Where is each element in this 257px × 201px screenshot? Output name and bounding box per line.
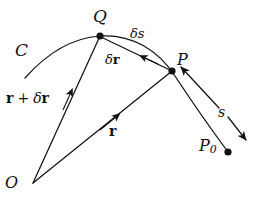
point-dot-p (168, 67, 175, 74)
point-dot-p0 (224, 148, 231, 155)
label-point-p: P (177, 52, 188, 68)
point-dot-q (96, 32, 103, 39)
label-r-plus-delta-r: r+δr (6, 91, 49, 105)
label-r-plus-delta-r-first-r: r (6, 90, 13, 106)
label-point-p0-base: P (199, 136, 210, 155)
vector-o-to-q (33, 36, 100, 183)
vector-calculus-diagram: C Q P P0 O δs δr r+δr r s (0, 0, 257, 201)
label-origin-o: O (5, 175, 18, 191)
label-delta-r-vector: δr (105, 53, 120, 66)
label-point-p0: P0 (199, 138, 217, 156)
label-arc-length-s: s (218, 105, 225, 119)
pointer-arrow-to-p (181, 67, 219, 108)
vector-o-to-p (33, 71, 172, 183)
label-r-plus-delta-r-delta: δ (33, 90, 41, 106)
label-curve-c: C (15, 42, 28, 59)
label-r-plus-delta-r-second-r: r (42, 90, 49, 106)
label-delta-r-r: r (113, 52, 120, 67)
segment-p-to-q-arrowhead (143, 57, 158, 64)
label-r-plus-delta-r-plus-sign: + (17, 90, 29, 106)
label-point-p0-subscript: 0 (210, 143, 217, 156)
label-delta-r-delta: δ (105, 52, 113, 67)
label-point-q: Q (93, 8, 107, 25)
arc-length-direction-arrow (228, 117, 246, 140)
label-r-vector: r (109, 124, 116, 138)
label-delta-s: δs (130, 27, 145, 40)
